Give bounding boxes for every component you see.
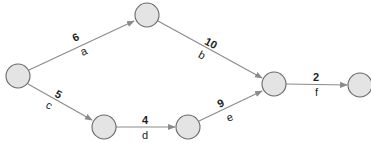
edge-f-arrow (286, 84, 347, 85)
edge-d-activity: d (142, 129, 148, 141)
edge-b-weight: 10 (203, 35, 219, 51)
edge-e-activity: e (224, 110, 235, 123)
edge-b-arrow (158, 21, 262, 78)
node-4 (176, 115, 200, 139)
node-2 (135, 3, 159, 27)
edge-c: 5 c (28, 84, 92, 120)
node-3 (92, 115, 116, 139)
edge-c-weight: 5 (53, 87, 64, 100)
edge-f: 2 f (286, 71, 347, 98)
edge-d: 4 d (116, 114, 175, 141)
network-diagram: 6 a 10 b 5 c 4 d 9 e 2 f (0, 0, 371, 143)
edge-d-weight: 4 (142, 114, 149, 126)
edge-c-activity: c (44, 98, 55, 111)
edge-b-activity: b (197, 48, 208, 61)
edge-e: 9 e (199, 91, 262, 124)
edge-a: 6 a (29, 21, 134, 70)
node-5 (262, 72, 286, 96)
node-1 (6, 64, 30, 88)
edge-e-weight: 9 (215, 96, 226, 109)
edge-f-activity: f (315, 86, 319, 98)
edge-a-activity: a (78, 44, 89, 58)
edge-f-weight: 2 (313, 71, 319, 83)
edge-b: 10 b (158, 21, 262, 78)
edge-a-weight: 6 (70, 30, 81, 43)
node-6 (348, 73, 371, 97)
